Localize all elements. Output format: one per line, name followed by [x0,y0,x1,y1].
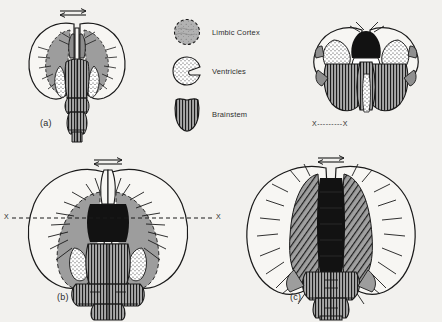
legend-swatch-ventricles [173,57,200,85]
legend-swatch-brainstem [175,99,199,131]
panel-a-drawing [8,2,168,142]
legend-label-limbic-cortex: Limbic Cortex [212,28,260,37]
midline-stalk-b [101,170,116,204]
panel-a-label: (a) [40,118,52,128]
panel-top-right: X---------X [300,12,432,122]
panel-b-drawing [4,152,236,320]
arrow-icon-panel-c [318,156,344,165]
panel-b-label: (b) [57,292,69,302]
panel-c-drawing [228,152,440,320]
panel-c-label: (c) [290,292,301,302]
legend-swatch-limbic-cortex [175,20,200,45]
panel-top-right-drawing [300,12,432,122]
panel-b-axis-label-left: X [4,213,9,220]
legend-label-ventricles: Ventricles [212,67,246,76]
midline-strip-top-right [363,74,371,112]
legend: Limbic Cortex Ventricles Brainstem [170,18,290,143]
panel-c: (c) [228,152,440,320]
panel-b-axis-line [0,211,230,225]
figure-canvas: (a) [0,0,442,322]
panel-a: (a) [8,2,168,142]
arrow-icon-panel-a [60,9,86,18]
legend-label-brainstem: Brainstem [212,110,247,119]
arrow-icon-panel-b [94,158,122,167]
panel-b: (b) [4,152,236,320]
panel-b-axis-label-right: X [216,213,221,220]
panel-top-right-axis-label: X---------X [312,120,348,127]
dark-mass-c [317,178,345,274]
